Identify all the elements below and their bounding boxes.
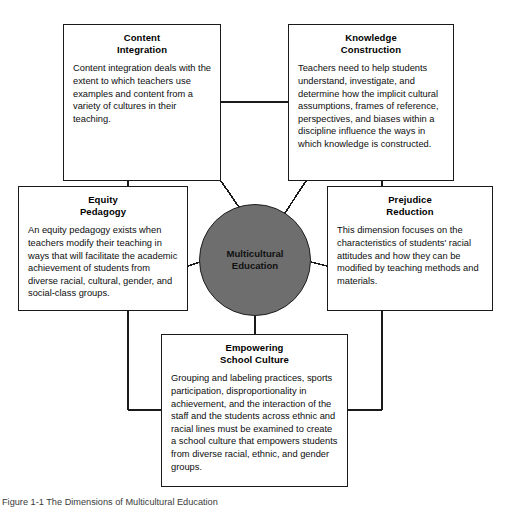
node-title-line1: Content — [124, 32, 161, 43]
node-title: Equity Pedagogy — [28, 194, 178, 218]
diagram-canvas: Content Integration Content integration … — [0, 0, 510, 509]
node-body: Grouping and labeling practices, sports … — [171, 372, 338, 473]
node-prejudice-reduction[interactable]: Prejudice Reduction This dimension focus… — [327, 186, 493, 311]
node-body: Content integration deals with the exten… — [73, 62, 211, 125]
node-title: Content Integration — [73, 32, 211, 56]
node-body: An equity pedagogy exists when teachers … — [28, 224, 178, 300]
node-body: This dimension focuses on the characteri… — [337, 224, 483, 287]
node-title-line1: Prejudice — [388, 194, 432, 205]
node-empowering-school-culture[interactable]: Empowering School Culture Grouping and l… — [161, 334, 348, 487]
node-knowledge-construction[interactable]: Knowledge Construction Teachers need to … — [288, 24, 454, 181]
node-title-line1: Knowledge — [345, 32, 397, 43]
node-title-line2: Construction — [298, 44, 444, 56]
node-title-line2: Reduction — [337, 206, 483, 218]
node-title-line2: School Culture — [171, 354, 338, 366]
node-equity-pedagogy[interactable]: Equity Pedagogy An equity pedagogy exist… — [18, 186, 188, 311]
node-content-integration[interactable]: Content Integration Content integration … — [63, 24, 221, 181]
node-title-line1: Empowering — [225, 342, 283, 353]
node-title: Knowledge Construction — [298, 32, 444, 56]
node-title-line1: Equity — [88, 194, 118, 205]
node-title-line2: Pedagogy — [28, 206, 178, 218]
node-title: Prejudice Reduction — [337, 194, 483, 218]
spoke-knowledge-construction — [283, 181, 306, 216]
center-node-label-line1: Multicultural — [226, 248, 283, 259]
spoke-prejudice-reduction — [311, 262, 327, 266]
node-title: Empowering School Culture — [171, 342, 338, 366]
center-node-multicultural-education[interactable]: Multicultural Education — [199, 204, 311, 316]
figure-caption: Figure 1-1 The Dimensions of Multicultur… — [2, 496, 508, 508]
center-node-label: Multicultural Education — [226, 248, 283, 273]
node-title-line2: Integration — [73, 44, 211, 56]
center-node-label-line2: Education — [226, 260, 283, 272]
node-body: Teachers need to help students understan… — [298, 62, 444, 150]
